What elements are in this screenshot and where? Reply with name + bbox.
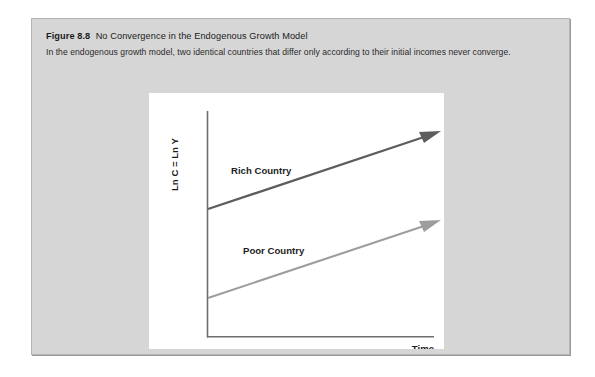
rich-country-arrowhead bbox=[419, 131, 441, 143]
series-rich-country: Rich Country bbox=[208, 131, 441, 209]
poor-country-arrowhead bbox=[419, 220, 441, 232]
chart-svg: Ln C = Ln Y Time Rich Country Poor Count… bbox=[149, 93, 444, 349]
figure-box: Figure 8.8 No Convergence in the Endogen… bbox=[31, 18, 570, 355]
chart-panel: Ln C = Ln Y Time Rich Country Poor Count… bbox=[149, 93, 444, 349]
poor-country-line bbox=[208, 224, 430, 298]
figure-description: In the endogenous growth model, two iden… bbox=[46, 46, 544, 58]
figure-number: Figure 8.8 bbox=[46, 31, 90, 41]
x-axis-label: Time bbox=[412, 343, 434, 349]
figure-caption: Figure 8.8 No Convergence in the Endogen… bbox=[46, 30, 551, 58]
poor-country-label: Poor Country bbox=[243, 245, 305, 256]
rich-country-label: Rich Country bbox=[231, 165, 292, 176]
series-poor-country: Poor Country bbox=[208, 220, 441, 298]
figure-caption-title: Figure 8.8 No Convergence in the Endogen… bbox=[46, 30, 551, 43]
y-axis-label: Ln C = Ln Y bbox=[169, 138, 180, 191]
figure-title: No Convergence in the Endogenous Growth … bbox=[96, 31, 308, 41]
